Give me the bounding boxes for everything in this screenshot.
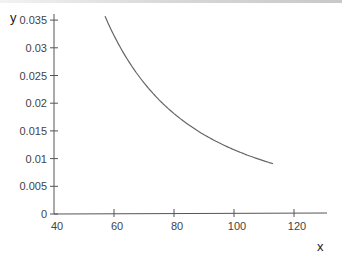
y-axis-label: y: [10, 10, 17, 25]
y-tick-label: 0.01: [26, 153, 47, 165]
y-tick-label: 0.02: [26, 97, 47, 109]
x-tick-label: 40: [51, 220, 63, 232]
x-tick-label: 100: [228, 220, 246, 232]
x-tick-label: 80: [171, 220, 183, 232]
y-axis-ticks: 00.0050.010.0150.020.0250.030.035: [19, 14, 58, 220]
y-tick-label: 0.035: [19, 14, 47, 26]
y-tick-label: 0.015: [19, 125, 47, 137]
y-tick-label: 0.025: [19, 70, 47, 82]
y-tick-label: 0.005: [19, 180, 47, 192]
x-axis-line: [54, 213, 327, 214]
y-tick-label: 0: [41, 208, 47, 220]
data-line: [105, 16, 273, 164]
axes: [54, 14, 327, 214]
x-axis-ticks: 406080100120: [51, 209, 306, 232]
x-axis-label: x: [317, 239, 324, 254]
y-tick-label: 0.03: [26, 42, 47, 54]
x-tick-label: 60: [111, 220, 123, 232]
chart: 00.0050.010.0150.020.0250.030.035 406080…: [0, 0, 342, 263]
x-tick-label: 120: [288, 220, 306, 232]
